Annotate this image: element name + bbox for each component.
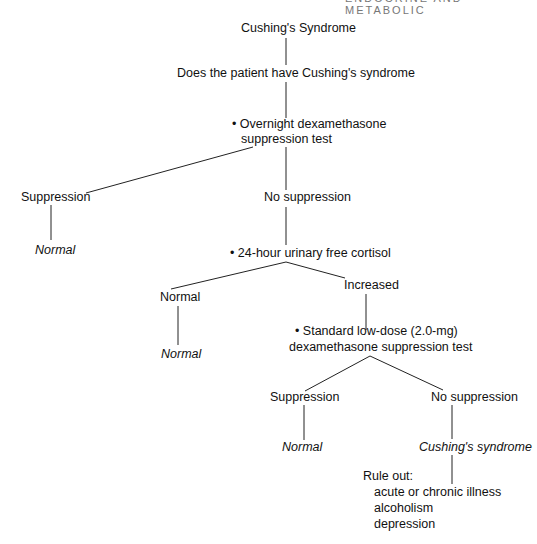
test3-line2: dexamethasone suppression test (289, 340, 472, 355)
test3-suppression: Suppression (270, 390, 340, 405)
test1-suppression: Suppression (21, 190, 91, 205)
test3-no-suppression: No suppression (431, 390, 518, 405)
test3-no-suppression-result: Cushing's syndrome (419, 440, 532, 455)
test2-normal: Normal (160, 290, 200, 305)
ruleout-item: alcoholism (374, 501, 433, 516)
test2-node: • 24-hour urinary free cortisol (230, 246, 391, 261)
test1-no-suppression: No suppression (264, 190, 351, 205)
test1-line2: suppression test (241, 132, 332, 147)
ruleout-item: depression (374, 517, 435, 532)
test2-increased: Increased (344, 278, 399, 293)
flowchart-lines (0, 0, 537, 544)
ruleout-label: Rule out: (363, 469, 413, 484)
test1-line1: • Overnight dexamethasone (232, 117, 386, 132)
test3-suppression-result: Normal (282, 440, 322, 455)
ruleout-item: acute or chronic illness (374, 485, 501, 500)
test3-line1: • Standard low-dose (2.0-mg) (295, 324, 458, 339)
question-node: Does the patient have Cushing's syndrome (177, 66, 415, 81)
root-node: Cushing's Syndrome (241, 21, 356, 36)
test1-suppression-result: Normal (35, 243, 75, 258)
test2-normal-result: Normal (161, 347, 201, 362)
